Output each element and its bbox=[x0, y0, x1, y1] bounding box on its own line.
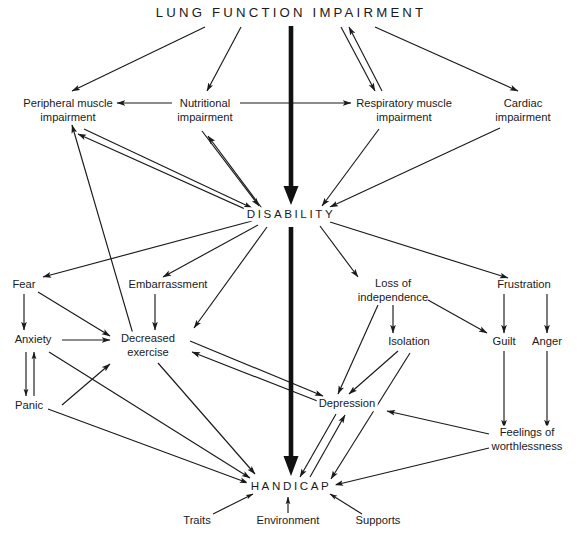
edge-decreased-exercise-handicap bbox=[158, 363, 255, 474]
edge-peripheral-disability bbox=[84, 129, 252, 208]
node-frustration: Frustration bbox=[497, 278, 550, 292]
edge-loss-independence-guilt bbox=[428, 300, 487, 333]
node-environment: Environment bbox=[257, 514, 320, 528]
edge-disability-peripheral-leg bbox=[78, 134, 256, 214]
edge-anxiety-handicap bbox=[49, 352, 250, 478]
edge-lfi-cardiac bbox=[375, 27, 518, 91]
spine-arrowhead-handicap bbox=[284, 456, 299, 476]
node-fear: Fear bbox=[12, 278, 35, 292]
edge-nutritional-disability bbox=[202, 131, 259, 206]
edge-handicap-depression-in bbox=[310, 415, 345, 477]
edge-panic-decreased-exercise bbox=[62, 364, 110, 405]
edge-disability-peripheral-return bbox=[72, 125, 140, 358]
node-nutritional-impairment: Nutritional impairment bbox=[177, 97, 232, 124]
edge-feelings-worthlessness-handicap bbox=[335, 448, 489, 485]
node-lung-function-impairment: LUNG FUNCTION IMPAIRMENT bbox=[156, 6, 427, 20]
edge-loss-independence-depression bbox=[338, 305, 378, 394]
edge-isolation-handicap bbox=[331, 353, 410, 479]
diagram-arrows-layer bbox=[0, 0, 582, 537]
node-feelings-of-worthlessness: Feelings of worthlessness bbox=[492, 426, 563, 453]
edge-lfi-nutritional bbox=[207, 27, 241, 91]
node-embarrassment: Embarrassment bbox=[129, 278, 208, 292]
node-cardiac-impairment: Cardiac impairment bbox=[495, 97, 550, 124]
edge-supports-handicap bbox=[330, 494, 362, 514]
node-traits: Traits bbox=[183, 514, 211, 528]
node-decreased-exercise: Decreased exercise bbox=[119, 332, 177, 359]
edge-lfi-respiratory-down bbox=[341, 27, 375, 91]
node-disability: DISABILITY bbox=[244, 207, 339, 221]
edge-disability-frustration bbox=[330, 222, 508, 278]
node-guilt: Guilt bbox=[492, 335, 515, 349]
edge-depression-handicap-out bbox=[300, 414, 336, 477]
spine-arrowhead-disability bbox=[284, 186, 299, 205]
edge-disability-loss-independence bbox=[320, 226, 358, 277]
edge-lfi-peripheral bbox=[72, 27, 205, 91]
node-respiratory-muscle-impairment: Respiratory muscle impairment bbox=[356, 97, 452, 124]
edge-decreased-exercise-depression-out bbox=[190, 341, 323, 396]
edge-feelings-worthlessness-depression bbox=[387, 411, 489, 434]
node-peripheral-muscle-impairment: Peripheral muscle impairment bbox=[23, 97, 113, 124]
node-depression: Depression bbox=[317, 397, 378, 411]
node-supports: Supports bbox=[356, 514, 401, 528]
node-panic: Panic bbox=[15, 399, 43, 413]
edge-disability-fear bbox=[43, 221, 252, 277]
node-loss-of-independence: Loss of independence bbox=[358, 277, 428, 304]
edge-cardiac-disability bbox=[330, 128, 500, 207]
node-anxiety: Anxiety bbox=[15, 333, 52, 347]
edge-traits-handicap bbox=[213, 494, 253, 514]
diagram-canvas: LUNG FUNCTION IMPAIRMENT Peripheral musc… bbox=[0, 0, 582, 537]
edge-respiratory-disability bbox=[322, 129, 379, 206]
node-isolation: Isolation bbox=[388, 335, 430, 349]
edge-disability-nutritional-leg bbox=[208, 136, 264, 211]
edge-respiratory-lfi-return bbox=[349, 27, 382, 91]
edge-depression-decreased-exercise-in bbox=[192, 352, 325, 404]
central-spine bbox=[284, 26, 299, 476]
node-anger: Anger bbox=[532, 335, 562, 349]
edge-isolation-depression bbox=[349, 351, 398, 394]
edge-panic-handicap bbox=[48, 409, 248, 483]
edge-fear-decreased-exercise bbox=[38, 292, 110, 336]
edge-disability-embarrassment bbox=[163, 225, 258, 277]
node-handicap: HANDICAP bbox=[247, 479, 336, 493]
